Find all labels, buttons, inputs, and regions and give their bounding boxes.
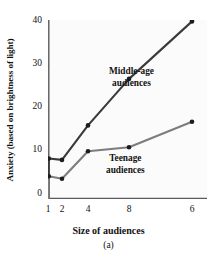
series-label-middle-age-line2: audiences (112, 78, 151, 88)
x-tick-label-4: 4 (80, 204, 96, 214)
series-label-middle-age-line1: Middle-age (109, 66, 154, 76)
series-teenage-point (127, 145, 132, 150)
plot-area: Middle-age audiences Teenage audiences (48, 20, 207, 199)
series-teenage-point (86, 149, 91, 154)
y-axis-title: Anxiety (based on brightness of light) (5, 15, 15, 205)
y-tick-label-40: 40 (20, 15, 42, 25)
x-tick-label-8: 8 (121, 204, 137, 214)
x-axis-title: Size of audiences (0, 225, 217, 236)
series-middle-age-point (60, 158, 65, 163)
y-tick-label-30: 30 (20, 58, 42, 68)
figure-panel: Anxiety (based on brightness of light) 4… (0, 0, 217, 263)
series-label-teenage-line1: Teenage (109, 153, 141, 163)
series-label-teenage: Teenage audiences (106, 153, 145, 176)
series-teenage-point (190, 120, 195, 125)
series-teenage-point (60, 177, 65, 182)
series-middle-age-point (48, 156, 51, 161)
y-tick-label-20: 20 (20, 101, 42, 111)
series-middle-age-point (86, 123, 91, 128)
series-label-middle-age: Middle-age audiences (109, 66, 154, 89)
x-tick-label-16: 6 (184, 204, 200, 214)
y-tick-label-10: 10 (20, 144, 42, 154)
series-teenage-point (48, 174, 51, 179)
y-tick-label-0: 0 (20, 188, 42, 198)
figure-caption: (a) (0, 240, 217, 250)
series-label-teenage-line2: audiences (106, 165, 145, 175)
x-tick-label-2: 2 (54, 204, 70, 214)
